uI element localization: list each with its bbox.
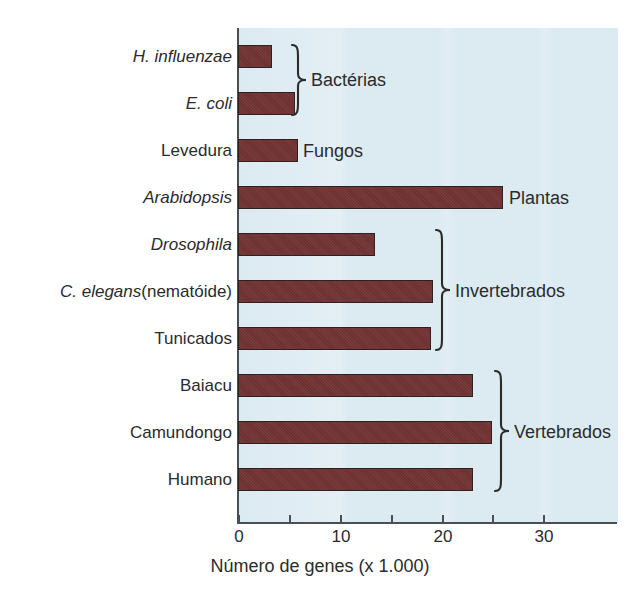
category-label-tunicados: Tunicados	[154, 330, 232, 347]
brace-bacterias	[288, 44, 310, 116]
category-label-row-2: Levedura	[0, 142, 232, 164]
category-label-row-0: H. influenzae	[0, 48, 232, 70]
bar-e-coli	[238, 92, 295, 115]
x-axis-title: Número de genes (x 1.000)	[0, 556, 640, 577]
brace-vertebrados	[491, 370, 513, 492]
category-label-row-4: Drosophila	[0, 236, 232, 258]
x-axis-tick-label-0: 0	[234, 527, 243, 547]
category-label-levedura: Levedura	[161, 142, 232, 159]
group-label-bacterias: Bactérias	[311, 71, 386, 89]
category-label-row-9: Humano	[0, 471, 232, 493]
group-label-invertebrados: Invertebrados	[455, 282, 565, 300]
category-label-c-elegans-binomial: C. elegans	[60, 282, 141, 301]
bar-h-influenzae	[238, 45, 272, 68]
x-axis-tick-label-10: 10	[332, 527, 351, 547]
category-label-arabidopsis: Arabidopsis	[143, 189, 232, 206]
bar-baiacu	[238, 374, 473, 397]
category-label-row-7: Baiacu	[0, 377, 232, 399]
category-label-drosophila: Drosophila	[151, 236, 232, 253]
x-axis-tick-15	[391, 515, 393, 523]
x-axis-tick-30	[543, 515, 545, 523]
x-axis-tick-20	[442, 515, 444, 523]
bar-drosophila	[238, 233, 375, 256]
bar-camundongo	[238, 421, 492, 444]
bar-arabidopsis	[238, 186, 503, 209]
gene-count-bar-chart: 0 10 20 30 H. influenzae E. coli Levedur…	[0, 0, 640, 601]
x-axis-line	[237, 522, 617, 524]
bar-levedura	[238, 139, 298, 162]
x-axis-tick-25	[492, 515, 494, 523]
x-axis-tick-label-30: 30	[535, 527, 554, 547]
bar-c-elegans	[238, 280, 433, 303]
category-label-c-elegans: C. elegans(nematóide)	[60, 283, 232, 300]
category-label-row-5: C. elegans(nematóide)	[0, 283, 232, 305]
category-label-c-elegans-common: (nematóide)	[141, 282, 232, 301]
category-label-camundongo: Camundongo	[130, 424, 232, 441]
x-axis-tick-10	[340, 515, 342, 523]
x-axis-tick-0	[238, 515, 240, 523]
category-label-h-influenzae: H. influenzae	[133, 48, 232, 65]
group-label-plantas: Plantas	[509, 189, 569, 207]
brace-invertebrados	[432, 229, 454, 351]
bar-tunicados	[238, 327, 431, 350]
group-label-fungos: Fungos	[303, 142, 363, 160]
bar-humano	[238, 468, 473, 491]
x-axis-tick-label-20: 20	[434, 527, 453, 547]
category-label-row-1: E. coli	[0, 95, 232, 117]
group-label-vertebrados: Vertebrados	[514, 423, 611, 441]
category-label-humano: Humano	[168, 471, 232, 488]
category-label-row-6: Tunicados	[0, 330, 232, 352]
x-axis-tick-5	[289, 515, 291, 523]
category-label-row-8: Camundongo	[0, 424, 232, 446]
category-label-baiacu: Baiacu	[180, 377, 232, 394]
category-label-row-3: Arabidopsis	[0, 189, 232, 211]
category-label-e-coli: E. coli	[186, 95, 232, 112]
